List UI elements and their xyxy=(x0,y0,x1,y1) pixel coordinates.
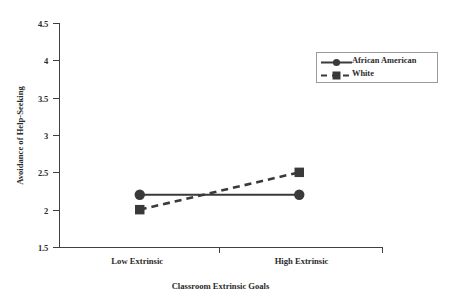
y-tick-4.5: 4.5 xyxy=(53,23,60,24)
y-axis-title: Avoidance of Help-Seeking xyxy=(13,23,27,248)
line-chart: Avoidance of Help-Seeking 4.5 4 3.5 3 2.… xyxy=(0,0,456,298)
legend-key-dashed-square xyxy=(321,68,352,81)
data-point-white-low-extrinsic xyxy=(135,205,144,214)
y-tick-label: 1.5 xyxy=(38,243,48,253)
legend-label: White xyxy=(352,70,374,78)
legend-item-white: White xyxy=(321,68,433,81)
y-tick-2: 2 xyxy=(53,210,60,211)
x-axis-title: Classroom Extrinsic Goals xyxy=(59,281,382,291)
y-tick-3.5: 3.5 xyxy=(53,98,60,99)
y-tick-label: 2 xyxy=(44,206,48,216)
x-tick-end xyxy=(382,247,383,253)
x-tick-label-high: High Extrinsic xyxy=(275,256,329,266)
legend-key-solid-circle xyxy=(321,55,352,68)
legend-label: African American xyxy=(352,57,416,65)
data-point-african-american-high-extrinsic xyxy=(294,190,304,200)
y-tick-label: 4.5 xyxy=(38,19,48,29)
y-tick-4: 4 xyxy=(53,60,60,61)
y-tick-label: 2.5 xyxy=(38,168,48,178)
y-tick-3: 3 xyxy=(53,135,60,136)
y-tick-label: 3 xyxy=(44,131,48,141)
x-tick-mid xyxy=(219,247,220,253)
y-tick-1.5: 1.5 xyxy=(53,247,60,248)
x-tick-label-low: Low Extrinsic xyxy=(111,256,163,266)
series-white-line xyxy=(140,172,300,209)
y-tick-2.5: 2.5 xyxy=(53,172,60,173)
data-point-white-high-extrinsic xyxy=(295,168,304,177)
data-point-african-american-low-extrinsic xyxy=(135,190,145,200)
legend-item-african-american: African American xyxy=(321,55,433,68)
y-tick-label: 3.5 xyxy=(38,94,48,104)
chart-legend: African American White xyxy=(316,52,438,83)
y-tick-label: 4 xyxy=(44,56,48,66)
